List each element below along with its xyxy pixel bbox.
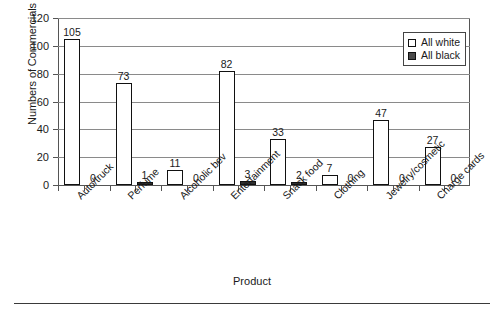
x-tick-mark (161, 186, 162, 191)
y-tick-label: 20 (37, 151, 49, 163)
bar (373, 120, 389, 185)
bar (322, 175, 338, 185)
bar-value-label: 47 (375, 107, 387, 119)
legend-label: All white (421, 36, 460, 49)
y-tick-mark (53, 157, 58, 158)
y-tick-mark (53, 102, 58, 103)
y-tick-label: 40 (37, 123, 49, 135)
bar-value-label: 11 (170, 157, 181, 169)
y-tick-mark (53, 74, 58, 75)
y-tick-mark (53, 18, 58, 19)
bar (64, 39, 80, 185)
y-tick-label: 0 (43, 179, 49, 191)
y-tick-mark (53, 46, 58, 47)
y-tick-label: 100 (31, 40, 49, 52)
x-tick-mark (419, 186, 420, 191)
y-tick-label: 60 (37, 96, 49, 108)
bottom-divider (14, 303, 490, 304)
x-tick-mark (110, 186, 111, 191)
bar (219, 71, 235, 185)
x-tick-mark (264, 186, 265, 191)
bar (167, 170, 183, 185)
y-tick-label: 120 (31, 12, 49, 24)
x-tick-mark (213, 186, 214, 191)
x-axis-title: Product (0, 275, 504, 287)
gridline (58, 18, 470, 19)
bar-value-label: 33 (272, 126, 284, 138)
bar-chart-figure: Numbers of Commercials 02040608010012010… (0, 0, 504, 315)
legend-swatch-white (408, 39, 416, 47)
x-tick-mark (367, 186, 368, 191)
x-tick-mark (316, 186, 317, 191)
legend-label: All black (421, 49, 460, 62)
legend-item: All white (408, 36, 460, 49)
x-tick-mark (58, 186, 59, 191)
legend-swatch-black (408, 52, 416, 60)
legend-item: All black (408, 49, 460, 62)
chart-legend: All whiteAll black (403, 32, 466, 66)
y-tick-mark (53, 129, 58, 130)
y-tick-label: 80 (37, 68, 49, 80)
bar-value-label: 7 (327, 162, 333, 174)
bar-value-label: 82 (221, 58, 233, 70)
bar (116, 83, 132, 185)
bar-value-label: 73 (118, 70, 130, 82)
bar-value-label: 105 (63, 26, 81, 38)
